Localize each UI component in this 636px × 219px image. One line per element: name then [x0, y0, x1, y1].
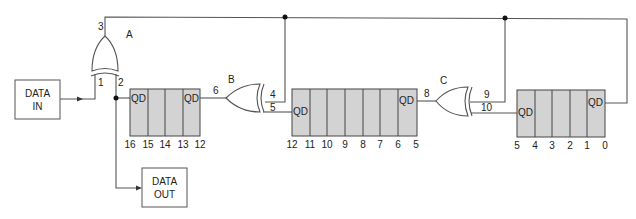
stage-label: 10	[321, 139, 333, 150]
xor-gate-a	[91, 36, 119, 76]
gate-label-c: C	[440, 75, 447, 86]
data-out-label-line2: OUT	[154, 189, 175, 200]
junction-dot	[503, 16, 508, 21]
pin-label-5: 5	[270, 102, 276, 113]
pin-label-8: 8	[424, 88, 430, 99]
qd-label: QD	[518, 107, 533, 118]
stage-label: 6	[395, 139, 401, 150]
pin-label-1: 1	[98, 77, 104, 88]
stage-label: 1	[584, 140, 590, 151]
stage-label: 12	[194, 139, 206, 150]
gate-label-a: A	[126, 29, 133, 40]
stage-label: 5	[413, 139, 419, 150]
stage-label: 14	[159, 139, 171, 150]
pin-label-10: 10	[481, 102, 493, 113]
stage-label: 2	[567, 140, 573, 151]
stage-label: 7	[377, 139, 383, 150]
stage-label: 15	[142, 139, 154, 150]
pin-label-6: 6	[213, 85, 219, 96]
arrow-icon	[136, 186, 142, 191]
junction-dot	[283, 15, 288, 20]
qd-label: QD	[293, 106, 308, 117]
stage-label: 5	[514, 140, 520, 151]
qd-label: QD	[588, 97, 603, 108]
arrow-icon	[77, 97, 83, 102]
pin-label-9: 9	[484, 89, 490, 100]
pin-label-4: 4	[270, 89, 276, 100]
data-out-label-line1: DATA	[152, 176, 178, 187]
pin-label-3: 3	[98, 21, 104, 32]
stage-label: 9	[342, 139, 348, 150]
data-in-block	[15, 80, 60, 119]
qd-label: QD	[399, 95, 414, 106]
stage-label: 11	[305, 139, 316, 150]
qd-label: QD	[131, 93, 146, 104]
pin-label-2: 2	[118, 77, 124, 88]
stage-label: 8	[360, 139, 366, 150]
stage-label: 16	[124, 139, 136, 150]
circuit-diagram: 3 A DATA IN 1 2 DATA OUT QD QD 16 15 14 …	[0, 0, 636, 219]
data-in-label-line1: DATA	[25, 88, 51, 99]
gate-label-b: B	[228, 74, 235, 85]
wire-data-in	[60, 74, 95, 99]
data-in-label-line2: IN	[33, 101, 43, 112]
data-out-block	[142, 168, 187, 207]
stage-label: 13	[177, 139, 189, 150]
xor-gate-b	[226, 84, 264, 112]
stage-label: 4	[532, 140, 538, 151]
stage-label: 0	[602, 140, 608, 151]
qd-label: QD	[184, 93, 199, 104]
stage-label: 3	[549, 140, 555, 151]
stage-label: 12	[286, 139, 298, 150]
junction-dot	[114, 96, 119, 101]
xor-gate-c	[436, 87, 472, 116]
